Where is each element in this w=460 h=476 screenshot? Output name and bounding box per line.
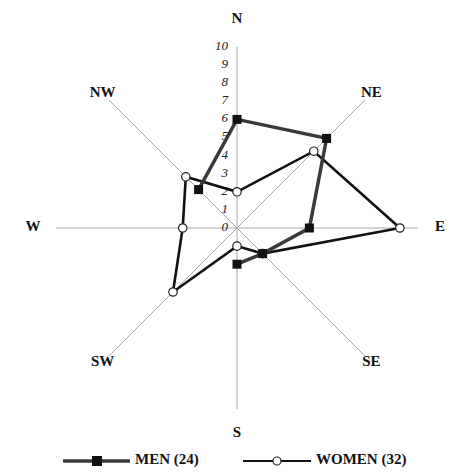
direction-label-e: E [435,218,445,234]
tick-label: 9 [222,56,229,71]
women-point-ne [310,147,318,155]
direction-label-nw: NW [90,84,116,100]
women-point-nw [182,173,190,181]
tick-label: 10 [215,38,229,53]
tick-label: 7 [222,92,229,107]
direction-labels: NNEESESSWWNW [26,10,446,440]
direction-label-s: S [233,424,241,440]
women-point-sw [169,288,177,296]
women-point-w [179,224,187,232]
men-point-se [258,249,267,258]
legend-men-label: MEN (24) [135,451,199,468]
tick-label: 3 [221,165,229,180]
legend: MEN (24) WOMEN (32) [63,451,406,468]
tick-label: 1 [222,201,229,216]
direction-label-se: SE [362,353,380,369]
men-point-e [305,224,314,233]
women-point-n [233,188,241,196]
tick-label: 6 [222,110,229,125]
direction-label-n: N [232,10,243,26]
direction-label-ne: NE [361,84,382,100]
direction-label-w: W [26,218,41,234]
women-point-s [233,242,241,250]
legend-women-marker [273,457,281,465]
men-point-n [233,115,242,124]
men-point-nw [194,185,203,194]
tick-label: 8 [222,74,229,89]
legend-men-marker [92,456,102,466]
axis-ne [237,100,365,228]
series-men-line [199,119,327,264]
direction-label-sw: SW [91,353,114,369]
women-point-e [396,224,404,232]
series-group [169,115,404,296]
tick-label: 0 [222,219,229,234]
axis-nw [109,100,237,228]
radar-chart: 012345678910 NNEESESSWWNW MEN (24) WOMEN… [0,0,460,476]
men-point-s [233,260,242,269]
men-point-ne [322,134,331,143]
legend-women-label: WOMEN (32) [316,451,406,468]
